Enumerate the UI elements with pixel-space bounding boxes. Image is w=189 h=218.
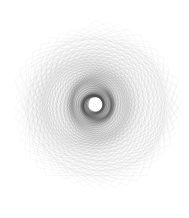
artwork-canvas: Rotating Polygon Spiral Generative line … [0,0,189,218]
spiral-polygon-icon [0,0,189,218]
artwork-background [0,0,189,218]
